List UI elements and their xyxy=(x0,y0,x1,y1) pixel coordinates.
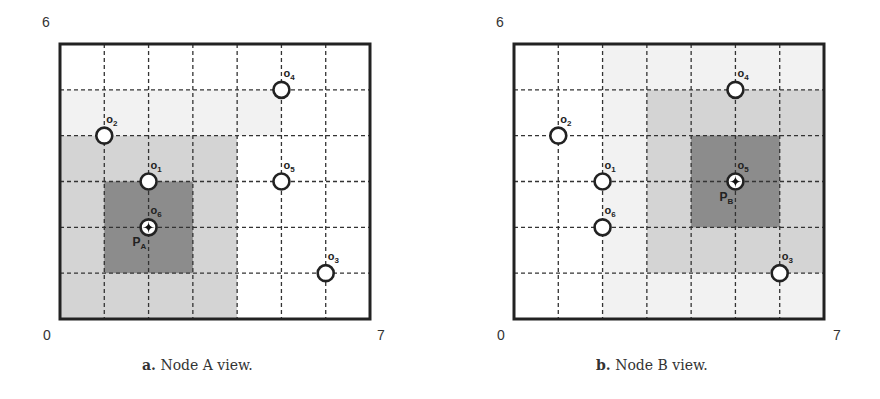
caption-a: a. Node A view. xyxy=(142,357,253,373)
object-label-subscript: 5 xyxy=(744,165,749,174)
grid-diagram-b: o1o2o3o4o5o6PB xyxy=(454,0,880,399)
origin-label: 0 xyxy=(43,327,51,343)
node-circle-icon xyxy=(273,82,289,98)
x-max-label: 7 xyxy=(833,327,841,343)
caption-letter: b. xyxy=(596,357,611,373)
grid-diagram-a: o1o2o3o4o5o6PA xyxy=(0,0,440,399)
object-label-subscript: 4 xyxy=(290,73,295,82)
caption-b: b. Node B view. xyxy=(596,357,708,373)
node-circle-icon xyxy=(141,174,157,190)
object-label-subscript: 1 xyxy=(157,165,162,174)
observer-label-subscript: B xyxy=(727,197,733,206)
object-label-subscript: 4 xyxy=(744,73,749,82)
node-circle-icon xyxy=(273,174,289,190)
caption-text: Node B view. xyxy=(615,357,708,373)
object-label-subscript: 6 xyxy=(611,210,616,219)
panel-node-b-view: o1o2o3o4o5o6PB 6 0 7 b. Node B view. xyxy=(454,0,880,399)
node-circle-icon xyxy=(727,82,743,98)
panel-node-a-view: o1o2o3o4o5o6PA 6 0 7 a. Node A view. xyxy=(0,0,440,399)
faint-region xyxy=(60,90,281,136)
object-label-subscript: 5 xyxy=(290,165,295,174)
object-label-subscript: 2 xyxy=(113,119,118,128)
node-circle-icon xyxy=(550,128,566,144)
y-max-label: 6 xyxy=(42,14,50,30)
y-max-label: 6 xyxy=(496,14,504,30)
observer-label-subscript: A xyxy=(141,242,147,251)
node-circle-icon xyxy=(595,174,611,190)
object-label-subscript: 3 xyxy=(788,256,793,265)
node-circle-icon xyxy=(772,265,788,281)
caption-text: Node A view. xyxy=(160,357,252,373)
node-circle-icon xyxy=(318,265,334,281)
x-max-label: 7 xyxy=(377,327,385,343)
origin-label: 0 xyxy=(497,327,505,343)
object-label-subscript: 1 xyxy=(611,165,616,174)
caption-letter: a. xyxy=(142,357,156,373)
node-circle-icon xyxy=(96,128,112,144)
object-label-subscript: 6 xyxy=(157,210,162,219)
node-circle-icon xyxy=(595,219,611,235)
object-label-subscript: 2 xyxy=(567,119,572,128)
object-label-subscript: 3 xyxy=(334,256,339,265)
